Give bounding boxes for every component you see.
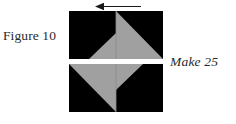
- direction-arrow-icon: [95, 2, 145, 11]
- make-quantity-label: Make 25: [170, 54, 218, 69]
- figure-label: Figure 10: [3, 28, 67, 43]
- figure-diagram: Figure 10 Make 25: [0, 0, 236, 124]
- upper-block: [69, 11, 163, 59]
- quilt-block-stack: [69, 11, 163, 112]
- direction-arrow: [95, 2, 145, 11]
- block-separator-gap: [69, 59, 163, 64]
- lower-block: [69, 64, 163, 112]
- quilt-blocks-svg: [69, 11, 163, 112]
